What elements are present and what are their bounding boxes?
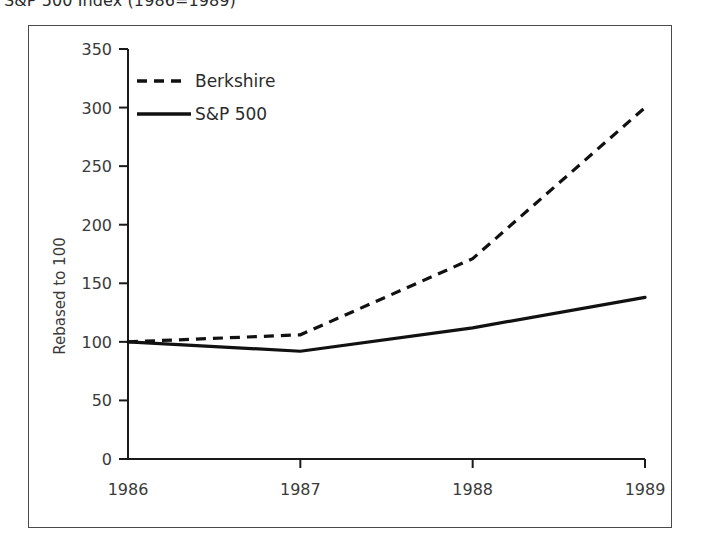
x-tick-label-1988: 1988 <box>452 480 493 499</box>
series-line-berkshire <box>128 108 645 342</box>
x-tick-label-1989: 1989 <box>625 480 666 499</box>
legend-item-sp500[interactable]: S&P 500 <box>137 104 267 124</box>
y-tick-label-100: 100 <box>81 333 112 352</box>
series-group <box>128 108 645 352</box>
y-tick-labels: 050100150200250300350 <box>81 40 112 469</box>
legend-item-berkshire[interactable]: Berkshire <box>137 71 275 91</box>
y-tick-label-50: 50 <box>92 391 112 410</box>
x-tick-label-1986: 1986 <box>108 480 149 499</box>
y-tick-label-0: 0 <box>102 450 112 469</box>
series-line-sp500 <box>128 297 645 351</box>
x-tick-label-1987: 1987 <box>280 480 321 499</box>
legend-label-berkshire: Berkshire <box>195 71 275 91</box>
y-tick-label-350: 350 <box>81 40 112 59</box>
y-tick-label-300: 300 <box>81 99 112 118</box>
caption-strip: S&P 500 Index (1986=1989) <box>0 0 708 14</box>
line-chart: 050100150200250300350 1986198719881989 R… <box>29 26 671 527</box>
y-tick-label-250: 250 <box>81 157 112 176</box>
y-axis-title: Rebased to 100 <box>51 237 69 354</box>
x-tick-labels: 1986198719881989 <box>108 480 666 499</box>
y-tick-label-200: 200 <box>81 216 112 235</box>
y-tick-label-150: 150 <box>81 274 112 293</box>
caption-text: S&P 500 Index (1986=1989) <box>4 0 236 10</box>
chart-frame: 050100150200250300350 1986198719881989 R… <box>28 25 672 528</box>
legend: Berkshire S&P 500 <box>137 71 275 124</box>
y-tick-marks <box>119 49 128 459</box>
x-tick-marks <box>300 459 645 468</box>
legend-label-sp500: S&P 500 <box>195 104 267 124</box>
